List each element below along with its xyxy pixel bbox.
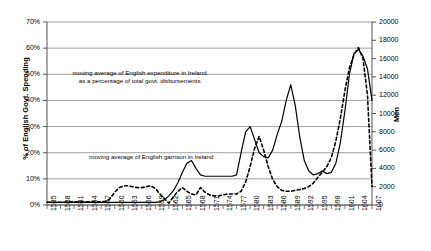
chart-container: % of English Govt. Spending Men 0%10%20%… (0, 0, 431, 251)
expenditure-annotation: moving average of English expenditure in… (73, 69, 207, 85)
garrison-annotation: moving average of English garrison in Ir… (89, 153, 213, 161)
plot-area (0, 0, 431, 251)
